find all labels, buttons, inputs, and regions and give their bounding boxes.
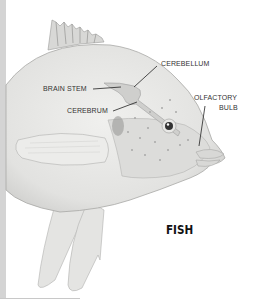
label-cerebellum: CEREBELLUM xyxy=(161,60,209,68)
diagram-title: FISH xyxy=(166,222,193,237)
pelvic-fins xyxy=(38,203,104,291)
label-brain-stem: BRAIN STEM xyxy=(43,85,87,93)
label-bulb: BULB xyxy=(219,104,238,112)
pectoral-fin xyxy=(16,133,109,165)
fish-illustration xyxy=(0,0,255,301)
label-olfactory: OLFACTORY xyxy=(194,94,237,102)
label-cerebrum: CEREBRUM xyxy=(67,107,108,115)
